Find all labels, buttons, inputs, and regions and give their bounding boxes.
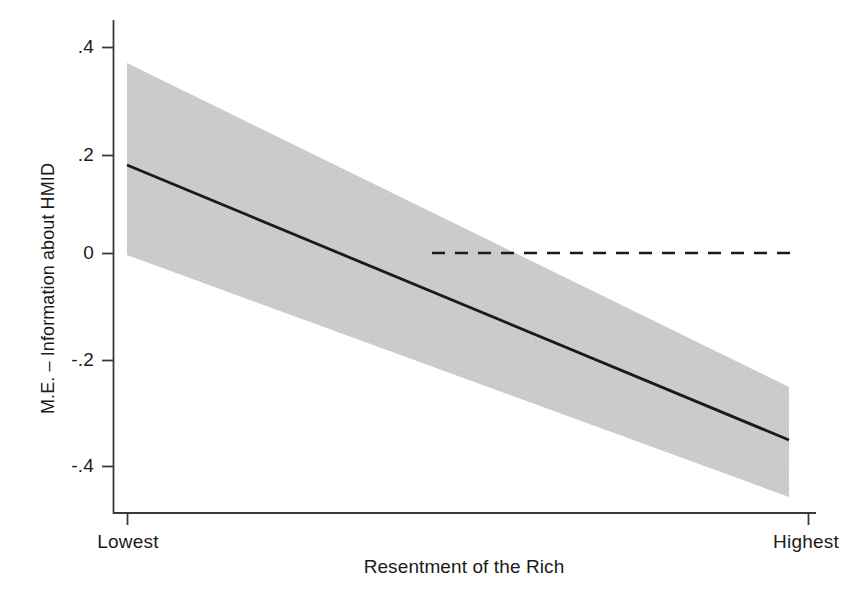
y-tick-label-4: -.4 [48,455,94,477]
x-axis-ticks [128,513,809,525]
marginal-effects-chart: .4 .2 0 -.2 -.4 Lowest Highest M.E. – In… [0,0,855,609]
plot-canvas [0,0,855,609]
y-axis-ticks [102,48,113,467]
y-axis-title: M.E. – Information about HMID [38,129,59,449]
x-axis-title: Resentment of the Rich [113,556,815,578]
marginal-effect-line [127,165,789,440]
x-tick-label-highest: Highest [773,531,839,553]
confidence-band [127,63,789,497]
y-tick-label-0: .4 [54,36,94,58]
y-tick-label-1: .2 [54,144,94,166]
y-tick-label-2: 0 [54,242,94,264]
x-tick-label-lowest: Lowest [97,531,158,553]
